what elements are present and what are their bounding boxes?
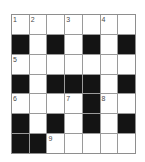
grid-letter-cell[interactable] [101, 35, 118, 54]
grid-letter-cell[interactable] [30, 75, 47, 94]
grid-letter-cell[interactable] [83, 134, 100, 153]
grid-block-cell [118, 35, 135, 54]
grid-letter-cell[interactable]: 8 [101, 94, 118, 113]
grid-letter-cell[interactable]: 9 [47, 134, 64, 153]
clue-number: 8 [102, 94, 106, 103]
grid-block-cell [12, 114, 29, 133]
grid-letter-cell[interactable] [65, 55, 82, 74]
grid-block-cell [83, 114, 100, 133]
clue-number: 9 [48, 134, 52, 143]
grid-letter-cell[interactable] [118, 55, 135, 74]
grid-block-cell [47, 35, 64, 54]
clue-number: 3 [66, 15, 70, 24]
grid-letter-cell[interactable]: 2 [30, 15, 47, 34]
grid-letter-cell[interactable]: 4 [101, 15, 118, 34]
clue-number: 1 [13, 15, 17, 24]
grid-letter-cell[interactable] [101, 114, 118, 133]
grid-letter-cell[interactable] [65, 114, 82, 133]
grid-block-cell [12, 134, 29, 153]
grid-letter-cell[interactable]: 7 [65, 94, 82, 113]
grid-letter-cell[interactable] [118, 15, 135, 34]
clue-number: 2 [31, 15, 35, 24]
grid-letter-cell[interactable] [83, 55, 100, 74]
grid-letter-cell[interactable] [47, 15, 64, 34]
grid-block-cell [12, 35, 29, 54]
clue-number: 4 [102, 15, 106, 24]
grid-letter-cell[interactable] [47, 94, 64, 113]
grid-block-cell [65, 75, 82, 94]
clue-number: 7 [66, 94, 70, 103]
grid-block-cell [118, 75, 135, 94]
grid-letter-cell[interactable] [30, 114, 47, 133]
grid-letter-cell[interactable] [101, 134, 118, 153]
grid-letter-cell[interactable]: 6 [12, 94, 29, 113]
grid-block-cell [83, 35, 100, 54]
grid-letter-cell[interactable] [118, 94, 135, 113]
grid-letter-cell[interactable] [47, 55, 64, 74]
grid-block-cell [30, 134, 47, 153]
grid-letter-cell[interactable]: 1 [12, 15, 29, 34]
grid-block-cell [12, 75, 29, 94]
clue-number: 6 [13, 94, 17, 103]
grid-letter-cell[interactable] [101, 55, 118, 74]
grid-block-cell [47, 75, 64, 94]
grid-letter-cell[interactable] [30, 35, 47, 54]
grid-letter-cell[interactable] [83, 15, 100, 34]
crossword-puzzle: 123456789 [0, 0, 145, 162]
grid-block-cell [118, 114, 135, 133]
grid-letter-cell[interactable] [30, 55, 47, 74]
grid-letter-cell[interactable] [65, 35, 82, 54]
crossword-grid: 123456789 [11, 14, 136, 154]
clue-number: 5 [13, 55, 17, 64]
grid-letter-cell[interactable] [65, 134, 82, 153]
grid-block-cell [83, 94, 100, 113]
grid-letter-cell[interactable]: 5 [12, 55, 29, 74]
grid-letter-cell[interactable] [101, 75, 118, 94]
grid-letter-cell[interactable]: 3 [65, 15, 82, 34]
grid-block-cell [47, 114, 64, 133]
grid-letter-cell[interactable] [30, 94, 47, 113]
grid-block-cell [83, 75, 100, 94]
grid-letter-cell[interactable] [118, 134, 135, 153]
